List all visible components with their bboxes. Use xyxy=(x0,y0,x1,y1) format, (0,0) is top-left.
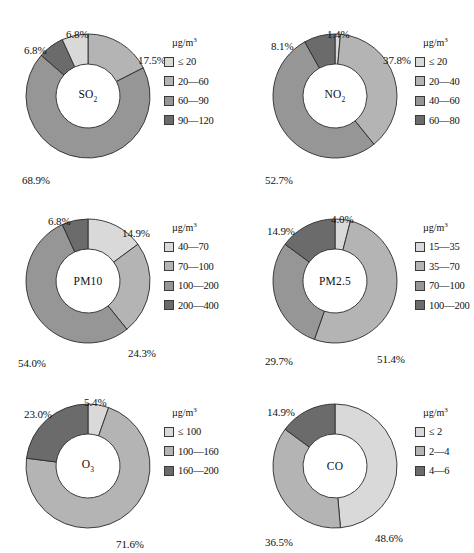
legend-item[interactable]: 100—200 xyxy=(164,280,234,291)
legend-item[interactable]: 2—4 xyxy=(415,446,474,457)
slice-percentage-label: 71.6% xyxy=(116,538,144,550)
donut-no2: NO21.4%37.8%52.7%8.1% xyxy=(265,26,405,166)
legend-item-label: 100—160 xyxy=(178,446,219,457)
legend-item-label: 35—70 xyxy=(429,261,460,272)
chart-cell-pm10: PM1014.9%24.3%54.0%6.8%µg/m340—7070—1001… xyxy=(0,185,235,370)
legend-item[interactable]: ≤ 20 xyxy=(415,56,474,67)
legend-item-label: 70—100 xyxy=(429,280,465,291)
legend-so2: µg/m3≤ 2020—6060—9090—120 xyxy=(164,36,234,134)
legend-swatch-icon xyxy=(164,300,174,310)
donut-pm10: PM1014.9%24.3%54.0%6.8% xyxy=(18,211,158,351)
legend-item[interactable]: ≤ 2 xyxy=(415,426,474,437)
legend-no2: µg/m3≤ 2020—4040—6060—80 xyxy=(415,36,474,134)
legend-item[interactable]: 4—6 xyxy=(415,465,474,476)
legend-item-label: ≤ 2 xyxy=(429,426,442,437)
slice-percentage-label: 5.4% xyxy=(84,396,107,408)
legend-swatch-icon xyxy=(164,446,174,456)
donut-so2: SO217.5%68.9%6.8%6.8% xyxy=(18,26,158,166)
legend-swatch-icon xyxy=(415,76,425,86)
legend-item-label: 40—60 xyxy=(429,95,460,106)
legend-swatch-icon xyxy=(415,57,425,67)
legend-unit-title: µg/m3 xyxy=(423,406,474,418)
legend-item[interactable]: 60—80 xyxy=(415,115,474,126)
legend-swatch-icon xyxy=(415,427,425,437)
legend-unit-title: µg/m3 xyxy=(172,36,234,48)
legend-swatch-icon xyxy=(164,115,174,125)
slice-percentage-label: 4.0% xyxy=(331,213,354,225)
donut-slice[interactable] xyxy=(335,404,397,528)
legend-item-label: ≤ 100 xyxy=(178,426,201,437)
legend-swatch-icon xyxy=(164,281,174,291)
legend-swatch-icon xyxy=(164,427,174,437)
legend-item-label: 4—6 xyxy=(429,465,449,476)
legend-swatch-icon xyxy=(415,115,425,125)
legend-item-label: 15—35 xyxy=(429,241,460,252)
slice-percentage-label: 1.4% xyxy=(327,28,350,40)
legend-swatch-icon xyxy=(415,446,425,456)
slice-percentage-label: 14.9% xyxy=(122,227,150,239)
slice-percentage-label: 14.9% xyxy=(267,225,295,237)
legend-swatch-icon xyxy=(164,76,174,86)
legend-item[interactable]: 60—90 xyxy=(164,95,234,106)
slice-percentage-label: 6.8% xyxy=(66,28,89,40)
legend-unit-title: µg/m3 xyxy=(423,221,474,233)
legend-swatch-icon xyxy=(415,466,425,476)
legend-item[interactable]: 40—60 xyxy=(415,95,474,106)
legend-item[interactable]: 100—160 xyxy=(164,446,234,457)
legend-o3: µg/m3≤ 100100—160160—200 xyxy=(164,406,234,485)
legend-unit-title: µg/m3 xyxy=(172,221,234,233)
slice-percentage-label: 54.0% xyxy=(18,357,46,369)
legend-item-label: 2—4 xyxy=(429,446,449,457)
slice-percentage-label: 14.9% xyxy=(267,406,295,418)
legend-item-label: 40—70 xyxy=(178,241,209,252)
slice-percentage-label: 17.5% xyxy=(138,54,166,66)
legend-item[interactable]: 200—400 xyxy=(164,300,234,311)
legend-item-label: 20—60 xyxy=(178,76,209,87)
slice-percentage-label: 37.8% xyxy=(383,54,411,66)
chart-cell-pm25: PM2.54.0%51.4%29.7%14.9%µg/m315—3535—707… xyxy=(235,185,469,370)
donut-pm25: PM2.54.0%51.4%29.7%14.9% xyxy=(265,211,405,351)
legend-item-label: 70—100 xyxy=(178,261,214,272)
legend-swatch-icon xyxy=(164,242,174,252)
slice-percentage-label: 8.1% xyxy=(271,40,294,52)
slice-percentage-label: 29.7% xyxy=(265,355,293,367)
legend-swatch-icon xyxy=(164,96,174,106)
legend-swatch-icon xyxy=(164,57,174,67)
legend-item[interactable]: 70—100 xyxy=(415,280,474,291)
legend-item[interactable]: 160—200 xyxy=(164,465,234,476)
legend-item-label: 90—120 xyxy=(178,115,214,126)
legend-item[interactable]: 35—70 xyxy=(415,261,474,272)
legend-swatch-icon xyxy=(415,261,425,271)
legend-item[interactable]: 90—120 xyxy=(164,115,234,126)
legend-item-label: 200—400 xyxy=(178,300,219,311)
legend-item[interactable]: 70—100 xyxy=(164,261,234,272)
legend-item-label: ≤ 20 xyxy=(178,56,196,67)
slice-percentage-label: 48.6% xyxy=(375,532,403,544)
donut-co: CO48.6%36.5%14.9% xyxy=(265,396,405,536)
legend-item[interactable]: 100—200 xyxy=(415,300,474,311)
legend-item[interactable]: ≤ 20 xyxy=(164,56,234,67)
legend-pm10: µg/m340—7070—100100—200200—400 xyxy=(164,221,234,319)
slice-percentage-label: 24.3% xyxy=(128,347,156,359)
donut-slice[interactable] xyxy=(273,244,324,339)
legend-swatch-icon xyxy=(164,261,174,271)
legend-item[interactable]: 15—35 xyxy=(415,241,474,252)
legend-item-label: 60—80 xyxy=(429,115,460,126)
legend-item[interactable]: ≤ 100 xyxy=(164,426,234,437)
chart-cell-co: CO48.6%36.5%14.9%µg/m3≤ 22—44—6 xyxy=(235,370,469,553)
legend-item[interactable]: 20—60 xyxy=(164,76,234,87)
legend-item-label: 100—200 xyxy=(429,300,470,311)
legend-swatch-icon xyxy=(415,300,425,310)
slice-percentage-label: 51.4% xyxy=(377,353,405,365)
slice-percentage-label: 36.5% xyxy=(265,536,293,548)
legend-swatch-icon xyxy=(164,466,174,476)
chart-cell-so2: SO217.5%68.9%6.8%6.8%µg/m3≤ 2020—6060—90… xyxy=(0,0,235,185)
donut-o3: O35.4%71.6%23.0% xyxy=(18,396,158,536)
legend-pm25: µg/m315—3535—7070—100100—200 xyxy=(415,221,474,319)
legend-swatch-icon xyxy=(415,281,425,291)
legend-item[interactable]: 20—40 xyxy=(415,76,474,87)
legend-item[interactable]: 40—70 xyxy=(164,241,234,252)
chart-cell-o3: O35.4%71.6%23.0%µg/m3≤ 100100—160160—200 xyxy=(0,370,235,553)
legend-co: µg/m3≤ 22—44—6 xyxy=(415,406,474,485)
